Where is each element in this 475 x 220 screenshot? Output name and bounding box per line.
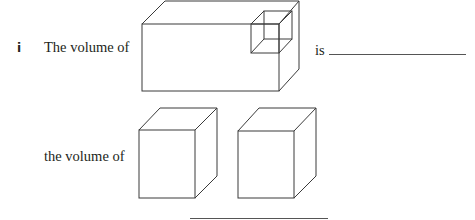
cuboid-left-figure bbox=[139, 108, 217, 198]
small-cube-figure bbox=[251, 11, 292, 53]
figures-canvas bbox=[0, 0, 475, 220]
cuboid-right-figure bbox=[238, 108, 316, 198]
large-cuboid-figure bbox=[142, 1, 299, 91]
